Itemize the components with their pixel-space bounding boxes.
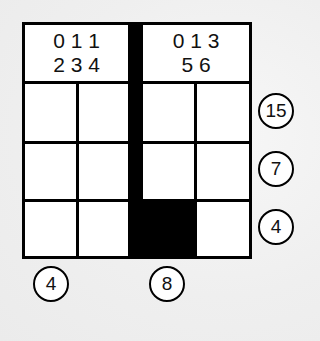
puzzle: 0 1 1 2 3 4 0 1 3 5 6 15 7 4 4: [0, 0, 312, 341]
cell-r2-c4[interactable]: [197, 144, 249, 199]
cell-r2-c3[interactable]: [143, 144, 194, 199]
cell-r3-c2[interactable]: [79, 202, 128, 256]
cell-r3-c1[interactable]: [25, 202, 76, 256]
row-clue-2: 7: [258, 151, 294, 187]
row-clue-3: 4: [258, 209, 294, 245]
row-clue-3-value: 4: [271, 216, 282, 238]
cell-r3-c3-blocked: [130, 199, 196, 256]
row-clue-2-value: 7: [271, 158, 282, 180]
column-clue-2: 8: [149, 266, 185, 302]
column-clue-1-value: 4: [46, 273, 57, 295]
cell-r1-c1[interactable]: [25, 84, 76, 141]
header-left: 0 1 1 2 3 4: [25, 25, 128, 81]
header-right-line2: 5 6: [181, 53, 210, 77]
cell-r2-c1[interactable]: [25, 144, 76, 199]
header-right-line1: 0 1 3: [173, 29, 220, 53]
row-clue-1-value: 15: [265, 100, 286, 122]
cell-r1-c4[interactable]: [197, 84, 249, 141]
cell-r2-c2[interactable]: [79, 144, 128, 199]
header-left-line1: 0 1 1: [53, 29, 100, 53]
header-left-line2: 2 3 4: [53, 53, 100, 77]
row-clue-1: 15: [258, 93, 294, 129]
cell-r3-c4[interactable]: [197, 202, 249, 256]
column-clue-1: 4: [33, 266, 69, 302]
cell-r1-c3[interactable]: [143, 84, 194, 141]
header-right: 0 1 3 5 6: [143, 25, 249, 81]
cell-r1-c2[interactable]: [79, 84, 128, 141]
column-clue-2-value: 8: [162, 273, 173, 295]
puzzle-board: 0 1 1 2 3 4 0 1 3 5 6: [22, 22, 252, 259]
